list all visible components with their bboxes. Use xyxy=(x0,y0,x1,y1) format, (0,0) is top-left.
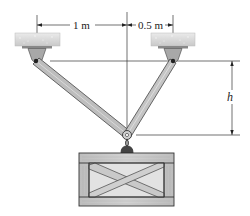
arrow-right-icon xyxy=(122,23,127,26)
hook xyxy=(121,139,133,153)
right-support xyxy=(151,33,195,63)
arrow-left-icon xyxy=(37,23,42,26)
height-label: h xyxy=(227,90,233,104)
left-member xyxy=(33,58,131,138)
arrow-down-icon xyxy=(230,130,233,135)
common-pin xyxy=(123,131,132,140)
arrow-up-icon xyxy=(230,61,233,66)
left-pin xyxy=(34,59,38,63)
crate xyxy=(79,153,174,206)
arrow-left-icon xyxy=(127,23,132,26)
statics-diagram: 1 m 0.5 m h xyxy=(0,0,250,216)
left-span-label: 1 m xyxy=(73,19,90,31)
arrow-right-icon xyxy=(168,23,173,26)
right-span-label: 0.5 m xyxy=(138,19,164,31)
right-pin xyxy=(171,59,175,63)
right-member xyxy=(124,59,176,138)
left-support xyxy=(15,33,60,63)
